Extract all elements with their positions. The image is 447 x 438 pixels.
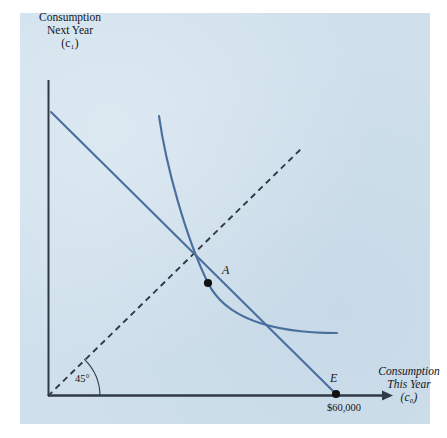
y-axis-title-variable: (c₁) [14, 37, 126, 50]
forty-five-degree-line [48, 148, 302, 396]
angle-label: 45° [75, 373, 90, 385]
y-axis-title: Consumption Next Year (c₁) [14, 11, 126, 50]
point-e-label: E [330, 372, 337, 386]
indifference-curve [159, 116, 337, 333]
x-axis-title-variable: (c₀) [372, 391, 446, 404]
point-a-label: A [222, 264, 229, 278]
x-axis-title-line1: Consumption [372, 365, 446, 378]
point-a-marker [204, 279, 212, 287]
endowment-value-label: $60,000 [312, 402, 376, 414]
x-axis-title-line2: This Year [372, 378, 446, 391]
point-e-marker [332, 390, 340, 398]
x-axis-title: Consumption This Year (c₀) [372, 365, 446, 404]
y-axis-title-line2: Next Year [14, 24, 126, 37]
y-axis-title-line1: Consumption [14, 11, 126, 24]
